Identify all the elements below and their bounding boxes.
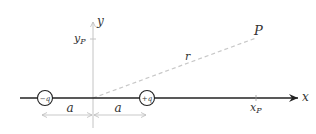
y-tick-label: yP	[73, 32, 86, 46]
distance-line	[93, 38, 256, 98]
dipole-diagram: y yP r P x xP −q +q a a	[0, 0, 316, 134]
dimension-left-label: a	[66, 101, 73, 115]
dimension-right-label: a	[114, 101, 121, 115]
x-axis-label: x	[302, 90, 309, 104]
x-tick-label: xP	[250, 101, 262, 115]
svg-text:+q: +q	[142, 95, 153, 103]
y-axis-label: y	[96, 14, 104, 28]
point-p-label: P	[253, 23, 263, 38]
svg-text:−q: −q	[40, 95, 51, 103]
distance-label: r	[185, 50, 191, 63]
charge-positive: +q	[140, 91, 155, 106]
charge-negative: −q	[38, 91, 53, 106]
